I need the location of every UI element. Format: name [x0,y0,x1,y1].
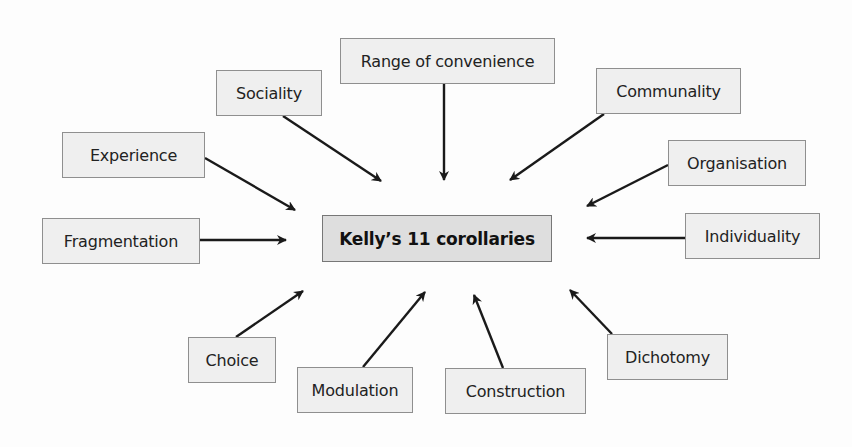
node-label: Sociality [236,84,302,103]
node-label: Fragmentation [64,232,178,251]
node-label: Construction [466,382,565,401]
arrow-construction [474,295,503,368]
node-range-of-convenience: Range of convenience [340,38,555,84]
diagram-canvas: Range of convenience Sociality Communali… [0,0,852,447]
node-choice: Choice [188,337,276,383]
node-individuality: Individuality [685,213,820,259]
node-label: Experience [90,146,177,165]
node-label: Modulation [312,381,399,400]
node-label: Choice [206,351,259,370]
node-dichotomy: Dichotomy [607,334,728,380]
node-label: Range of convenience [361,52,535,71]
node-sociality: Sociality [216,70,322,116]
arrow-dichotomy [570,290,612,334]
arrow-sociality [283,116,381,181]
arrow-choice [236,291,303,337]
node-label: Communality [616,82,721,101]
arrow-modulation [363,292,425,367]
center-node-kellys-corollaries: Kelly’s 11 corollaries [322,215,552,262]
node-label: Individuality [705,227,801,246]
arrow-organisation [587,165,668,206]
center-label: Kelly’s 11 corollaries [339,229,535,249]
node-modulation: Modulation [297,367,413,413]
node-experience: Experience [62,132,205,178]
node-label: Organisation [687,154,787,173]
node-communality: Communality [596,68,741,114]
arrow-experience [205,158,295,210]
node-fragmentation: Fragmentation [42,218,200,264]
node-label: Dichotomy [625,348,710,367]
node-organisation: Organisation [668,140,806,186]
arrow-communality [510,114,604,180]
node-construction: Construction [445,368,586,414]
